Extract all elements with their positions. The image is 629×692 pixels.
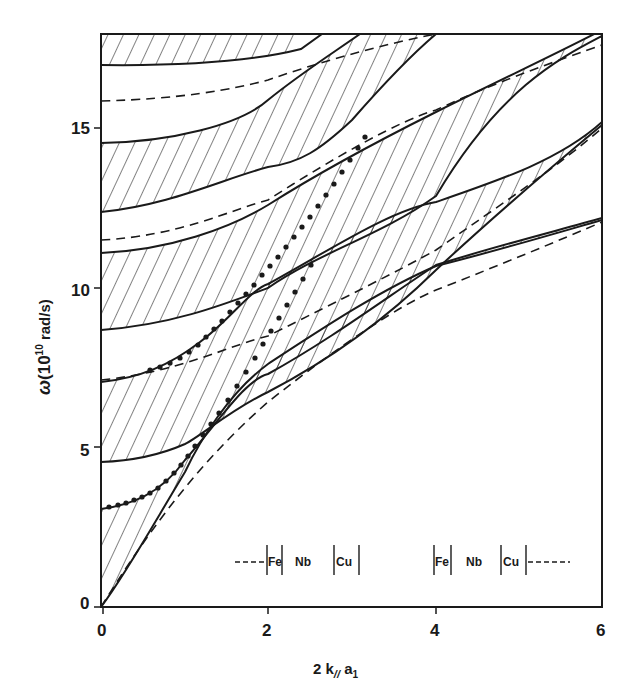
legend-group-1: Fe Nb Cu [235,545,359,575]
legend-label-cu-1: Cu [336,555,352,569]
legend-label-cu-2: Cu [503,555,519,569]
x-axis-title: 2 k// a1 [313,660,359,680]
y-tick-label-5: 5 [80,441,89,460]
legend-label-fe-2: Fe [435,555,449,569]
y-axis-title: ω(1010 rad/s) [34,299,54,395]
y-axis-ticks [94,128,101,607]
y-tick-label-10: 10 [71,281,90,300]
x-axis-ticks [103,607,436,614]
x-tick-label-4: 4 [430,621,440,640]
x-tick-label-2: 2 [262,621,271,640]
x-tick-label-0: 0 [97,621,106,640]
legend-label-fe-1: Fe [268,555,282,569]
plot-area [101,30,602,607]
legend-label-nb-1: Nb [295,555,311,569]
hatched-band-5 [101,34,301,65]
dispersion-chart: 0 5 10 15 0 2 4 6 2 k// a1 ω(1010 rad/s)… [0,0,629,692]
legend-label-nb-2: Nb [466,555,482,569]
y-tick-label-0: 0 [80,594,89,613]
y-tick-label-15: 15 [71,119,90,138]
legend-group-2: Fe Nb Cu [434,545,570,575]
x-tick-label-6: 6 [596,621,605,640]
